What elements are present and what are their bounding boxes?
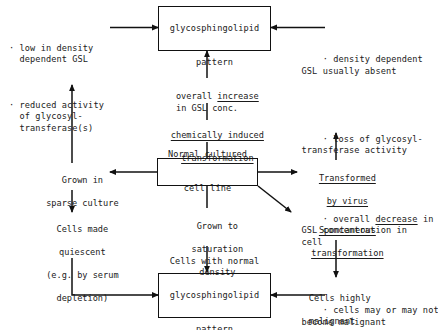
label-virus-line1: Transformed (319, 173, 376, 183)
label-malignant-line1: Cells highly (309, 293, 371, 303)
label-spontaneous-line1: Spontaneous (319, 225, 376, 235)
edge-normalline-to-spontaneous (258, 186, 291, 212)
bullet-list-left: · low in density dependent GSL · reduced… (9, 20, 137, 157)
label-malignant-line2: malignant (309, 316, 356, 326)
box-modified-glycosphingolipid-pattern: Modified glycosphingolipid pattern (158, 6, 271, 51)
label-spontaneous-transformation: Spontaneous transformation (287, 214, 387, 271)
bullet-right-item-2-pre: · loss of glycosyl- transferase activity (291, 134, 423, 155)
label-saturation-line2: saturation (191, 244, 243, 254)
bullet-left-item-1: · low in density dependent GSL (9, 43, 137, 66)
label-cells-made-quiescent: Cells made quiescent (e.g. by serum depl… (10, 213, 134, 316)
label-saturation-line3: density (199, 267, 235, 277)
box-normalpattern-line3: pattern (170, 324, 260, 330)
label-transformed-by-virus: Transformed by virus (293, 162, 381, 219)
label-sparse-line2: sparse culture (46, 198, 118, 208)
label-saturation-line1: Grown to (197, 221, 238, 231)
label-grown-to-saturation-density: Grown to saturation density (152, 210, 262, 290)
box-normalline-line2: cell line (168, 183, 247, 194)
label-quiescent-line1: Cells made (56, 224, 108, 234)
label-sparse-line1: Grown in (62, 175, 103, 185)
label-quiescent-line3: (e.g. by serum (46, 270, 118, 280)
label-chemically-induced-transformation: chemically induced transformation (142, 119, 272, 176)
label-overall-increase-post: in GSL conc. (176, 103, 238, 113)
label-chemically-line2: transformation (181, 153, 253, 163)
label-overall-increase-emphasis: increase (217, 91, 258, 101)
label-chemically-line1: chemically induced (171, 130, 264, 140)
box-normalpattern-line2: glycosphingolipid (170, 290, 260, 301)
label-cells-highly-malignant: Cells highly malignant (288, 282, 393, 330)
box-modified-line3: pattern (170, 57, 260, 68)
box-modified-line2: glycosphingolipid (170, 23, 260, 34)
label-virus-line2: by virus (327, 196, 368, 206)
bullet-left-item-2: · reduced activity of glycosyl- transfer… (9, 100, 137, 134)
label-quiescent-line2: quiescent (59, 247, 106, 257)
label-quiescent-line4: depletion) (56, 293, 108, 303)
label-overall-increase-pre: overall (176, 91, 217, 101)
flowchart-diagram: Modified glycosphingolipid pattern Norma… (0, 0, 438, 330)
box-modified-text: Modified glycosphingolipid pattern (170, 0, 260, 91)
label-spontaneous-line2: transformation (311, 248, 383, 258)
bullet-right-item-1-pre: · density dependent GSL usually absent (291, 54, 423, 75)
bullet-right-item-1: · density dependent GSL usually absent (291, 43, 436, 89)
